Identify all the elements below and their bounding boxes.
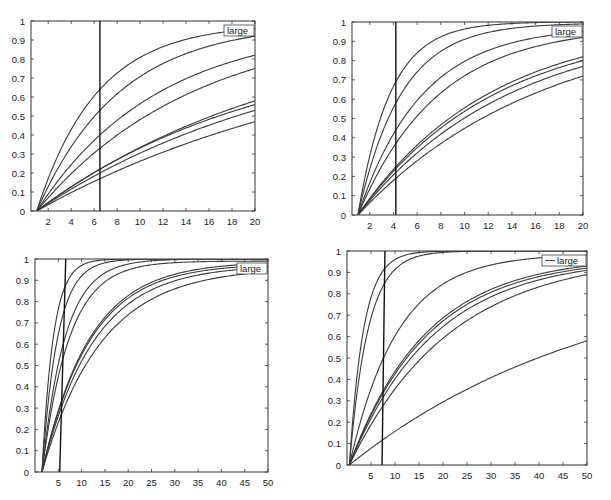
- y-tick-label: 0.7: [12, 73, 25, 84]
- y-tick-label: 0.6: [333, 94, 346, 105]
- x-tick-label: 12: [483, 220, 494, 231]
- x-tick-label: 8: [115, 216, 120, 227]
- x-tick-label: 18: [227, 216, 238, 227]
- y-tick-label: 0.5: [333, 113, 346, 124]
- x-tick-label: 2: [46, 216, 51, 227]
- y-tick-label: 0.3: [333, 152, 346, 163]
- x-tick-label: 20: [578, 220, 589, 231]
- y-tick-label: 1: [24, 254, 29, 265]
- y-tick-label: 0.2: [333, 171, 346, 182]
- x-tick-label: 15: [414, 470, 425, 481]
- y-tick-label: 0.1: [328, 438, 341, 449]
- legend: large: [552, 26, 582, 38]
- figure: 00.10.20.30.40.50.60.70.80.9124681012141…: [0, 0, 611, 500]
- x-tick-label: 45: [558, 470, 569, 481]
- x-tick-label: 12: [158, 216, 169, 227]
- y-tick-label: 0.1: [12, 187, 25, 198]
- y-tick-label: 0: [24, 467, 29, 478]
- y-tick-label: 0.5: [16, 360, 29, 371]
- x-tick-label: 30: [170, 477, 181, 488]
- y-tick-label: 0.8: [12, 54, 25, 65]
- y-tick-label: 0.5: [328, 353, 341, 364]
- x-tick-label: 14: [507, 220, 518, 231]
- x-tick-label: 25: [462, 470, 473, 481]
- x-tick-label: 16: [530, 220, 541, 231]
- y-tick-label: 0.6: [12, 92, 25, 103]
- y-tick-label: 0.4: [12, 130, 25, 141]
- x-tick-label: 20: [250, 216, 261, 227]
- y-tick-label: 1: [341, 17, 346, 28]
- panel-3: 00.10.20.30.40.50.60.70.80.9151015202530…: [16, 254, 274, 489]
- legend: large: [237, 263, 267, 275]
- y-tick-label: 0.9: [12, 35, 25, 46]
- axes-frame: [35, 259, 268, 472]
- x-tick-label: 40: [534, 470, 545, 481]
- x-tick-label: 16: [204, 216, 215, 227]
- x-tick-label: 35: [510, 470, 521, 481]
- x-tick-label: 10: [135, 216, 146, 227]
- y-tick-label: 0.6: [16, 339, 29, 350]
- y-tick-label: 0: [336, 460, 341, 471]
- x-tick-label: 30: [486, 470, 497, 481]
- y-tick-label: 0.7: [333, 74, 346, 85]
- y-tick-label: 1: [20, 16, 25, 27]
- y-tick-label: 0.3: [16, 403, 29, 414]
- x-tick-label: 50: [263, 477, 274, 488]
- y-tick-label: 0.2: [16, 424, 29, 435]
- y-tick-label: 0.4: [16, 381, 29, 392]
- x-tick-label: 8: [438, 220, 443, 231]
- x-tick-label: 45: [239, 477, 250, 488]
- x-tick-label: 35: [193, 477, 204, 488]
- y-tick-label: 0.9: [328, 267, 341, 278]
- legend: large: [224, 25, 254, 37]
- x-tick-label: 10: [76, 477, 87, 488]
- panel-4: 00.10.20.30.40.50.60.70.80.9151015202530…: [328, 246, 593, 482]
- y-tick-label: 1: [336, 246, 341, 257]
- y-tick-label: 0.9: [16, 275, 29, 286]
- x-tick-label: 4: [391, 220, 396, 231]
- panel-2: 00.10.20.30.40.50.60.70.80.9124681012141…: [333, 17, 589, 232]
- x-tick-label: 20: [438, 470, 449, 481]
- y-tick-label: 0.8: [328, 288, 341, 299]
- y-tick-label: 0: [20, 206, 25, 217]
- x-tick-label: 15: [100, 477, 111, 488]
- legend: large: [542, 255, 586, 267]
- y-tick-label: 0.7: [328, 310, 341, 321]
- y-tick-label: 0.6: [328, 331, 341, 342]
- y-tick-label: 0.3: [12, 149, 25, 160]
- y-tick-label: 0.1: [333, 190, 346, 201]
- x-tick-label: 6: [92, 216, 97, 227]
- legend-label: large: [240, 263, 261, 274]
- x-tick-label: 14: [181, 216, 192, 227]
- legend-label: large: [227, 25, 248, 36]
- legend-label: large: [557, 255, 578, 266]
- y-tick-label: 0: [341, 210, 346, 221]
- panel-1: 00.10.20.30.40.50.60.70.80.9124681012141…: [12, 16, 261, 228]
- y-tick-label: 0.9: [333, 36, 346, 47]
- y-tick-label: 0.3: [328, 395, 341, 406]
- x-tick-label: 10: [390, 470, 401, 481]
- x-tick-label: 5: [56, 477, 61, 488]
- y-tick-label: 0.2: [328, 417, 341, 428]
- x-tick-label: 5: [368, 470, 373, 481]
- y-tick-label: 0.8: [16, 296, 29, 307]
- x-tick-label: 20: [123, 477, 134, 488]
- x-tick-label: 4: [69, 216, 74, 227]
- y-tick-label: 0.1: [16, 445, 29, 456]
- x-tick-label: 40: [216, 477, 227, 488]
- x-tick-label: 18: [554, 220, 565, 231]
- y-tick-label: 0.8: [333, 55, 346, 66]
- x-tick-label: 50: [582, 470, 593, 481]
- y-tick-label: 0.5: [12, 111, 25, 122]
- x-tick-label: 2: [367, 220, 372, 231]
- y-tick-label: 0.2: [12, 168, 25, 179]
- y-tick-label: 0.4: [328, 374, 341, 385]
- x-tick-label: 25: [146, 477, 157, 488]
- y-tick-label: 0.4: [333, 132, 346, 143]
- y-tick-label: 0.7: [16, 317, 29, 328]
- x-tick-label: 10: [459, 220, 470, 231]
- axes-frame: [31, 21, 255, 211]
- x-tick-label: 6: [415, 220, 420, 231]
- legend-label: large: [555, 26, 576, 37]
